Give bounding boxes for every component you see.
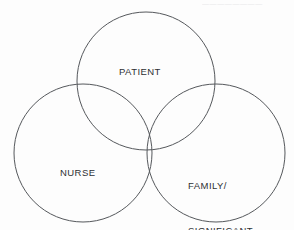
venn-label-family-line-2: SIGNIFICANT bbox=[188, 223, 253, 230]
venn-label-nurse: NURSE bbox=[60, 165, 96, 180]
venn-label-family-line-1: FAMILY/ bbox=[188, 178, 253, 193]
venn-circle-nurse bbox=[14, 84, 152, 222]
venn-diagram: PATIENT NURSE FAMILY/ SIGNIFICANT OTHERS… bbox=[0, 0, 294, 230]
venn-circle-patient bbox=[77, 12, 215, 150]
venn-label-patient: PATIENT bbox=[119, 64, 161, 79]
venn-label-family-significant-others: FAMILY/ SIGNIFICANT OTHERS bbox=[188, 148, 253, 230]
scan-artifact-top-right: ———————— bbox=[202, 0, 290, 6]
